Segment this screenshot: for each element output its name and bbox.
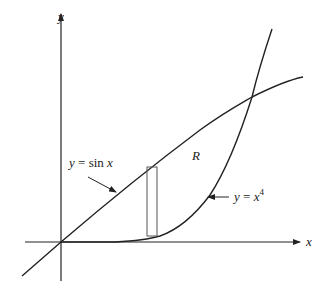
quartic-label-eq: = [240, 189, 254, 204]
x-axis-label: x [305, 234, 312, 249]
sine-label-func: sin [89, 155, 105, 170]
sine-label-eq: = [75, 155, 89, 170]
quartic-curve [61, 29, 272, 242]
sine-label-arrow [88, 177, 116, 192]
area-between-curves-diagram: y x R y = sin x y = x4 [0, 0, 326, 295]
quartic-curve-label: y = x4 [232, 187, 264, 204]
sine-curve [22, 77, 303, 276]
region-label: R [191, 148, 200, 163]
representative-rectangle [147, 167, 157, 236]
sine-curve-label: y = sin x [67, 155, 113, 170]
sine-label-var: x [106, 155, 113, 170]
quartic-label-exp: 4 [259, 187, 264, 197]
y-axis-label: y [56, 9, 64, 24]
